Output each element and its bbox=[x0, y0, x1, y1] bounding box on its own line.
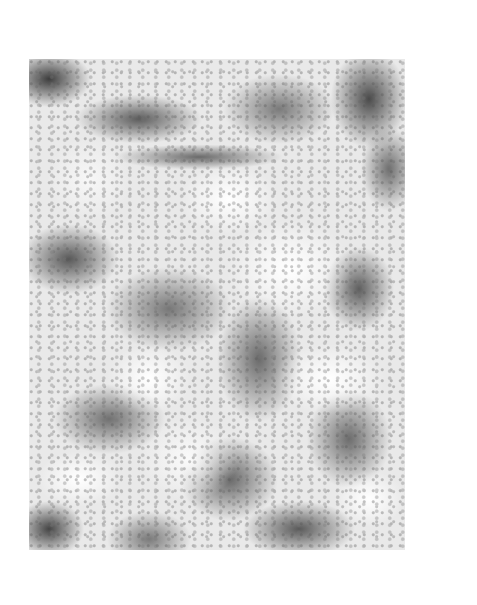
speckle-texture-layer bbox=[29, 59, 405, 550]
abstract-grayscale-artwork bbox=[29, 59, 405, 550]
page-canvas bbox=[0, 0, 477, 605]
